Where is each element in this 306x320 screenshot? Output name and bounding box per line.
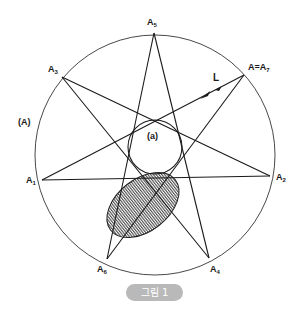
edge-A6-A7	[107, 75, 244, 259]
vertex-label-A5: A5	[147, 17, 158, 28]
figure-caption: 그림 1	[126, 284, 183, 301]
vertex-label-A4: A4	[210, 264, 221, 275]
edge-A7-A1	[42, 75, 244, 180]
inner-circle-a	[128, 120, 182, 174]
vertex-label-A1: A1	[26, 175, 37, 186]
shaded-ellipse	[95, 159, 192, 250]
vertex-label-A3: A3	[48, 64, 59, 75]
edge-A2-A3	[62, 77, 270, 176]
poncelet-diagram: L A5 A3 A=A7 (A) (a) A1 A2 A6 A4	[0, 0, 306, 320]
line-label-L: L	[213, 72, 219, 83]
vertex-label-A7: A=A7	[248, 62, 270, 73]
outer-circle-label-A: (A)	[18, 117, 31, 127]
inner-circle-label-a: (a)	[147, 131, 158, 141]
vertex-label-A2: A2	[276, 172, 287, 183]
vertex-label-A6: A6	[97, 264, 108, 275]
outer-circle-A	[35, 35, 275, 275]
